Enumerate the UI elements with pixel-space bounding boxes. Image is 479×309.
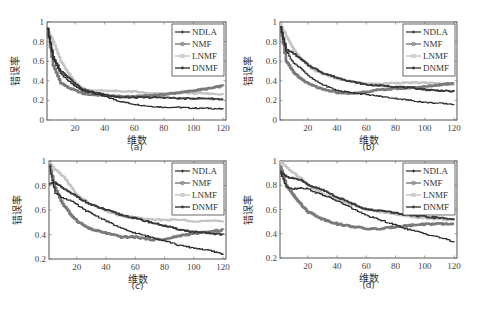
y-tick-label: 0.2 <box>266 95 277 105</box>
x-tick-label: 80 <box>391 123 401 133</box>
legend-label: NMF <box>192 178 212 188</box>
y-tick-label: 1 <box>273 17 278 27</box>
y-tick-label: 0.2 <box>266 253 277 263</box>
subplot-c: 204060801001200.20.40.60.81NDLANMFLNMFDN… <box>11 156 230 291</box>
x-tick-label: 100 <box>418 261 432 271</box>
subplot-d: 204060801001200.20.40.60.81NDLANMFLNMFDN… <box>242 156 461 290</box>
legend-label: LNMF <box>423 190 448 200</box>
x-tick-label: 120 <box>216 123 230 133</box>
subplot-caption: (d) <box>362 280 375 290</box>
x-tick-label: 40 <box>333 261 343 271</box>
subplot-b: 2040608010012000.20.40.60.81NDLANMFLNMFD… <box>242 17 461 152</box>
legend: NDLANMFLNMFDNMF <box>403 163 455 215</box>
x-tick-label: 40 <box>102 262 112 272</box>
y-axis-label: 错误率 <box>242 56 254 86</box>
x-tick-label: 120 <box>447 261 461 271</box>
y-axis-label: 错误率 <box>9 56 21 86</box>
figure: 2040608010012000.20.40.60.81NDLANMFLNMFD… <box>0 0 479 309</box>
legend-label: LNMF <box>192 51 217 61</box>
y-tick-label: 0.8 <box>33 37 45 47</box>
x-tick-label: 80 <box>160 262 170 272</box>
y-tick-label: 0.6 <box>35 205 47 215</box>
x-tick-label: 60 <box>130 123 140 133</box>
y-tick-label: 0.8 <box>266 37 278 47</box>
x-tick-label: 20 <box>303 123 313 133</box>
y-tick-label: 0 <box>40 115 45 125</box>
x-tick-label: 100 <box>187 262 201 272</box>
legend-label: NMF <box>423 178 443 188</box>
subplot-caption: (a) <box>130 142 143 152</box>
y-tick-label: 0.6 <box>33 56 45 66</box>
legend-label: DNMF <box>192 202 218 212</box>
y-axis-label: 错误率 <box>11 195 23 225</box>
x-tick-label: 60 <box>362 261 372 271</box>
x-tick-label: 100 <box>187 123 201 133</box>
legend: NDLANMFLNMFDNMF <box>403 24 455 76</box>
x-tick-label: 20 <box>72 262 82 272</box>
y-tick-label: 0.8 <box>35 181 47 191</box>
y-tick-label: 0.8 <box>266 180 278 190</box>
legend-label: DNMF <box>192 63 218 73</box>
y-axis-label: 错误率 <box>242 195 254 225</box>
legend-label: LNMF <box>192 190 217 200</box>
y-tick-label: 1 <box>273 156 278 166</box>
x-tick-label: 100 <box>418 123 432 133</box>
y-tick-label: 0.6 <box>266 56 278 66</box>
legend: NDLANMFLNMFDNMF <box>172 163 224 215</box>
x-tick-label: 60 <box>362 123 372 133</box>
y-tick-label: 0.2 <box>35 254 46 264</box>
legend-label: DNMF <box>423 202 449 212</box>
x-tick-label: 80 <box>159 123 169 133</box>
y-tick-label: 0.4 <box>266 229 278 239</box>
y-tick-label: 0.2 <box>33 95 44 105</box>
x-tick-label: 120 <box>447 123 461 133</box>
x-tick-label: 60 <box>131 262 141 272</box>
y-tick-label: 0.4 <box>35 230 47 240</box>
subplot-caption: (b) <box>362 142 375 152</box>
x-tick-label: 20 <box>303 261 313 271</box>
legend-label: LNMF <box>423 51 448 61</box>
subplot-caption: (c) <box>132 281 144 291</box>
y-tick-label: 1 <box>42 156 47 166</box>
legend-label: NDLA <box>192 27 217 37</box>
x-tick-label: 40 <box>333 123 343 133</box>
y-tick-label: 1 <box>40 17 45 27</box>
x-tick-label: 120 <box>216 262 230 272</box>
y-tick-label: 0.4 <box>266 76 278 86</box>
y-tick-label: 0.6 <box>266 205 278 215</box>
legend-label: NDLA <box>192 166 217 176</box>
legend-label: NMF <box>192 39 212 49</box>
x-tick-label: 20 <box>71 123 81 133</box>
subplot-a: 2040608010012000.20.40.60.81NDLANMFLNMFD… <box>9 17 230 152</box>
legend-label: NDLA <box>423 27 448 37</box>
x-tick-label: 40 <box>100 123 110 133</box>
x-tick-label: 80 <box>391 261 401 271</box>
y-tick-label: 0 <box>273 115 278 125</box>
y-tick-label: 0.4 <box>33 76 45 86</box>
legend: NDLANMFLNMFDNMF <box>172 24 224 76</box>
legend-label: NMF <box>423 39 443 49</box>
legend-label: NDLA <box>423 166 448 176</box>
legend-label: DNMF <box>423 63 449 73</box>
